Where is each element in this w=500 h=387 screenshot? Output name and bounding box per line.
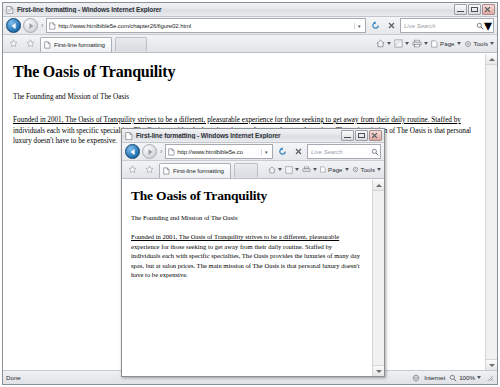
maximize-button[interactable]	[468, 4, 481, 15]
address-bar[interactable]: http://www.htmlbible5e.com/chapter26/fig…	[46, 18, 366, 33]
address-dropdown-icon[interactable]: ▾	[354, 23, 364, 29]
tools-menu-label: Tools	[361, 166, 375, 173]
refresh-button[interactable]	[368, 18, 382, 33]
security-zone-label: Internet	[424, 374, 445, 381]
scroll-up-button[interactable]	[486, 54, 497, 65]
search-placeholder: Live Search	[404, 23, 476, 29]
scroll-down-button[interactable]	[373, 365, 384, 376]
refresh-icon	[278, 147, 287, 156]
titlebar-inner[interactable]: First-line formatting - Windows Internet…	[122, 129, 384, 143]
close-button[interactable]	[482, 4, 495, 15]
page-icon	[163, 167, 170, 175]
forward-button[interactable]	[142, 144, 157, 159]
add-favorites-button[interactable]	[125, 162, 139, 177]
minimize-button[interactable]	[341, 130, 354, 141]
home-button[interactable]	[268, 166, 282, 174]
command-bar-outer[interactable]: First-line formatting	[3, 35, 497, 53]
resize-grip-icon[interactable]	[485, 373, 494, 382]
favorites-center-button[interactable]	[142, 162, 156, 177]
chevron-down-icon	[489, 364, 495, 367]
window-controls-outer[interactable]	[454, 4, 495, 15]
feeds-icon	[394, 39, 403, 48]
page-icon	[320, 166, 326, 173]
vertical-scrollbar-inner[interactable]	[372, 180, 384, 376]
chevron-down-icon[interactable]	[295, 168, 299, 171]
refresh-button[interactable]	[275, 144, 289, 159]
home-button[interactable]	[376, 39, 391, 48]
feeds-button[interactable]	[285, 166, 299, 174]
navigation-bar-inner[interactable]: › http://www.htmlbible5e.co ▾ Live Searc…	[122, 143, 384, 161]
tab-first-line-formatting[interactable]: First-line formatting	[159, 163, 231, 178]
star-icon	[145, 165, 154, 174]
address-dropdown-icon[interactable]: ▾	[261, 149, 271, 155]
minimize-button[interactable]	[454, 4, 467, 15]
gear-icon	[352, 166, 359, 173]
tab-first-line-formatting[interactable]: First-line formatting	[40, 37, 112, 52]
chevron-down-icon[interactable]	[490, 42, 494, 45]
address-bar[interactable]: http://www.htmlbible5e.co ▾	[165, 144, 273, 159]
chevron-down-icon[interactable]	[345, 168, 349, 171]
scroll-down-button[interactable]	[486, 359, 497, 370]
page-icon	[44, 41, 51, 49]
page-icon	[168, 148, 175, 156]
stop-button[interactable]	[291, 144, 305, 159]
page-icon	[431, 40, 438, 48]
search-input[interactable]: Live Search	[307, 144, 381, 159]
zoom-control[interactable]: 100%	[449, 374, 481, 382]
new-tab-button[interactable]	[234, 163, 258, 177]
titlebar-outer[interactable]: First-line formatting - Windows Internet…	[3, 3, 497, 17]
chevron-down-icon[interactable]	[477, 376, 481, 379]
search-input[interactable]: Live Search ▾	[400, 18, 494, 33]
chevron-down-icon[interactable]	[405, 42, 409, 45]
star-plus-icon	[128, 165, 137, 174]
search-icon[interactable]	[371, 148, 379, 156]
command-bar-inner[interactable]: First-line formatting	[122, 161, 384, 179]
star-plus-icon	[9, 39, 18, 48]
chevron-up-icon	[489, 58, 495, 61]
maximize-button[interactable]	[355, 130, 368, 141]
close-button[interactable]	[369, 130, 382, 141]
search-icon[interactable]	[476, 22, 484, 30]
scroll-up-button[interactable]	[373, 180, 384, 191]
print-button[interactable]	[302, 166, 317, 174]
add-favorites-button[interactable]	[6, 36, 20, 51]
tools-menu-button[interactable]: Tools	[464, 40, 494, 48]
zoom-level-label: 100%	[459, 374, 475, 381]
page-heading: The Oasis of Tranquility	[131, 188, 363, 204]
address-url-text: http://www.htmlbible5e.co	[177, 149, 261, 155]
navigation-bar-outer[interactable]: › http://www.htmlbible5e.com/chapter26/f…	[3, 17, 497, 35]
chevron-down-icon[interactable]	[377, 168, 381, 171]
page-icon	[49, 22, 56, 30]
chevron-down-icon[interactable]	[457, 42, 461, 45]
forward-button[interactable]	[23, 18, 38, 33]
print-button[interactable]	[412, 39, 428, 48]
window-controls-inner[interactable]	[341, 130, 382, 141]
webpage-inner: The Oasis of Tranquility The Founding an…	[122, 180, 372, 376]
favorites-center-button[interactable]	[23, 36, 37, 51]
address-url-text: http://www.htmlbible5e.com/chapter26/fig…	[58, 23, 354, 29]
chevron-down-icon[interactable]	[313, 168, 317, 171]
chevron-up-icon	[376, 184, 382, 187]
tab-label: First-line formatting	[173, 167, 224, 174]
page-menu-label: Page	[440, 40, 454, 47]
page-menu-button[interactable]: Page	[320, 166, 348, 173]
browser-window-inner[interactable]: First-line formatting - Windows Internet…	[121, 128, 385, 377]
tools-menu-button[interactable]: Tools	[352, 166, 381, 173]
new-tab-button[interactable]	[115, 37, 147, 51]
chevron-down-icon[interactable]	[424, 42, 428, 45]
chevron-down-icon[interactable]	[387, 42, 391, 45]
tools-menu-label: Tools	[474, 40, 488, 47]
globe-icon	[412, 374, 420, 382]
paragraph-first-line: Founded in 2001, The Oasis of Tranquilit…	[131, 233, 339, 240]
page-menu-button[interactable]: Page	[431, 40, 460, 48]
stop-button[interactable]	[384, 18, 398, 33]
back-button[interactable]	[6, 18, 21, 33]
home-icon	[376, 39, 385, 48]
feeds-button[interactable]	[394, 39, 409, 48]
back-button[interactable]	[125, 144, 140, 159]
zoom-icon	[449, 374, 457, 382]
paragraph-rest: experience for those seeking to get away…	[131, 243, 360, 279]
search-dropdown-icon[interactable]: ▾	[484, 16, 492, 35]
vertical-scrollbar-outer[interactable]	[485, 54, 497, 370]
chevron-down-icon[interactable]	[278, 168, 282, 171]
